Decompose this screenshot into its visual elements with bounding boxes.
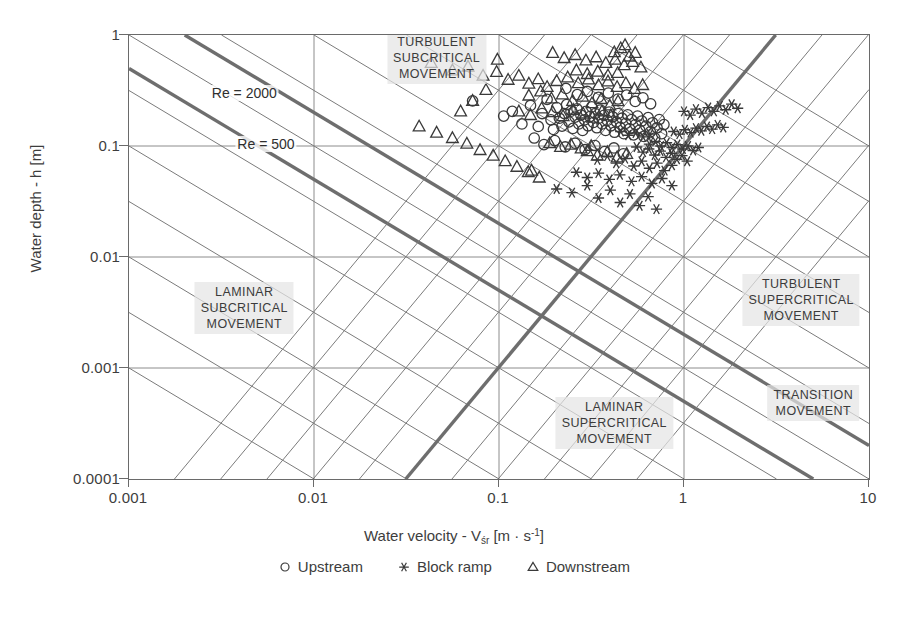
y-tick-mark	[119, 145, 128, 146]
reynolds-500-line	[129, 68, 813, 479]
x-tick-label: 0.1	[487, 489, 508, 506]
zone-label: TRANSITION MOVEMENT	[767, 385, 859, 421]
y-tick-label: 0.01	[90, 248, 120, 265]
iso-line-label: Re = 2000	[210, 85, 279, 101]
x-tick-mark	[498, 478, 499, 487]
x-tick-label: 0.01	[298, 489, 328, 506]
y-tick-mark	[119, 367, 128, 368]
legend-label: Upstream	[298, 558, 363, 575]
asterisk-marker-icon	[397, 560, 411, 574]
y-tick-mark	[119, 478, 128, 479]
x-axis-title-superscript: -1	[531, 527, 540, 538]
reynolds-gridline	[129, 368, 314, 479]
x-tick-mark	[313, 478, 314, 487]
x-axis-title: Water velocity - Vśr [m · s-1]	[0, 527, 908, 546]
legend-label: Downstream	[546, 558, 630, 575]
triangle-marker-icon	[526, 560, 540, 574]
iso-line-label: Re = 500	[235, 136, 296, 152]
x-tick-mark	[868, 478, 869, 487]
x-tick-label: 1	[679, 489, 688, 506]
chart-root: TURBULENT SUBCRITICAL MOVEMENTLAMINAR SU…	[0, 0, 908, 620]
x-axis-title-suffix: ]	[540, 527, 544, 544]
x-axis-title-mid: [m · s	[489, 527, 531, 544]
y-tick-mark	[119, 34, 128, 35]
zone-label: LAMINAR SUPERCRITICAL MOVEMENT	[556, 397, 673, 449]
legend-item[interactable]: Downstream	[526, 558, 630, 575]
reynolds-2000-line	[185, 35, 869, 446]
plot-area: TURBULENT SUBCRITICAL MOVEMENTLAMINAR SU…	[128, 34, 870, 480]
x-tick-label: 0.001	[109, 489, 148, 506]
y-tick-mark	[119, 256, 128, 257]
zone-label: TURBULENT SUPERCRITICAL MOVEMENT	[743, 274, 860, 326]
x-tick-label: 10	[859, 489, 876, 506]
circle-marker-icon	[278, 560, 292, 574]
y-tick-label: 0.0001	[73, 470, 120, 487]
legend-label: Block ramp	[417, 558, 492, 575]
legend-item[interactable]: Block ramp	[397, 558, 492, 575]
reynolds-gridline	[129, 313, 407, 480]
x-tick-mark	[683, 478, 684, 487]
zone-label: TURBULENT SUBCRITICAL MOVEMENT	[387, 34, 486, 84]
y-tick-label: 0.1	[99, 137, 120, 154]
y-axis-title: Water depth - h [m]	[27, 79, 44, 339]
x-tick-mark	[128, 478, 129, 487]
x-axis-title-prefix: Water velocity - V	[364, 527, 481, 544]
legend-item[interactable]: Upstream	[278, 558, 363, 575]
plot-canvas	[129, 35, 869, 479]
zone-label: LAMINAR SUBCRITICAL MOVEMENT	[195, 282, 294, 334]
y-tick-label: 0.001	[81, 359, 120, 376]
chart-legend: UpstreamBlock rampDownstream	[0, 558, 908, 575]
